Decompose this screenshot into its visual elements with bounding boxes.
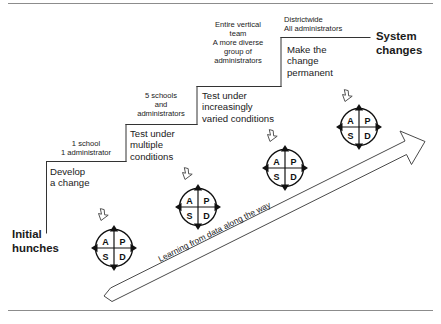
wheel-letter-act: A <box>102 237 109 247</box>
step-4-action-label: Make the change permanent <box>287 44 367 78</box>
wheel-letter-do: D <box>364 131 371 141</box>
system-changes-title: System changes <box>376 30 440 57</box>
wheel-arrow-up-icon <box>110 225 118 232</box>
wheel-letter-study: S <box>186 211 192 221</box>
step-3-scope-label: Entire vertical team A more diverse grou… <box>196 21 280 66</box>
pdsa-wheel-3: A P S D <box>262 145 308 191</box>
wheel-letter-study: S <box>273 172 279 182</box>
wheel-arrow-down-icon <box>281 185 289 192</box>
wheel-arrow-left-icon <box>91 244 98 252</box>
wheel-arrow-up-icon <box>194 184 202 191</box>
wheel-arrow-right-icon <box>215 203 222 211</box>
wheel-arrow-left-icon <box>262 164 269 172</box>
pdsa-wheel-2: A P S D <box>175 184 221 230</box>
diagram-canvas: Learning from data along the way A P S D <box>0 0 441 324</box>
wheel-letter-act: A <box>186 196 193 206</box>
step-1-scope-label: 1 school 1 administrator <box>45 140 127 158</box>
initial-hunches-title: Initial hunches <box>12 228 82 255</box>
wheel-arrow-right-icon <box>376 123 383 131</box>
pointer-hand-icon-1 <box>99 209 109 221</box>
step-3-action-label: Test under increasingly varied condition… <box>202 90 290 124</box>
wheel-letter-study: S <box>102 252 108 262</box>
wheel-letter-do: D <box>119 252 126 262</box>
wheel-arrow-up-icon <box>355 104 363 111</box>
wheel-letter-do: D <box>290 172 297 182</box>
wheel-arrow-left-icon <box>175 203 182 211</box>
pdsa-wheel-1: A P S D <box>91 225 137 271</box>
wheel-letter-plan: P <box>203 196 209 206</box>
pdsa-wheel-4: A P S D <box>336 104 382 150</box>
step-4-scope-label: Districtwide All administrators <box>284 16 380 34</box>
wheel-letter-study: S <box>347 131 353 141</box>
pointer-hand-icon-2 <box>183 168 193 180</box>
pointer-hand-icon-3 <box>268 130 278 142</box>
wheel-arrow-left-icon <box>336 123 343 131</box>
wheel-letter-act: A <box>347 116 354 126</box>
wheel-letter-plan: P <box>119 237 125 247</box>
step-2-action-label: Test under multiple conditions <box>130 128 200 162</box>
pointer-hand-icon-4 <box>343 90 353 102</box>
wheel-letter-act: A <box>273 157 280 167</box>
wheel-letter-plan: P <box>290 157 296 167</box>
step-1-action-label: Develop a change <box>50 166 126 189</box>
wheel-letter-do: D <box>203 211 210 221</box>
wheel-arrow-right-icon <box>131 244 138 252</box>
wheel-arrow-right-icon <box>302 164 309 172</box>
wheel-arrow-up-icon <box>281 145 289 152</box>
wheel-letter-plan: P <box>364 116 370 126</box>
wheel-arrow-down-icon <box>110 265 118 272</box>
wheel-arrow-down-icon <box>355 144 363 151</box>
wheel-arrow-down-icon <box>194 224 202 231</box>
step-2-scope-label: 5 schools and administrators <box>124 92 198 119</box>
